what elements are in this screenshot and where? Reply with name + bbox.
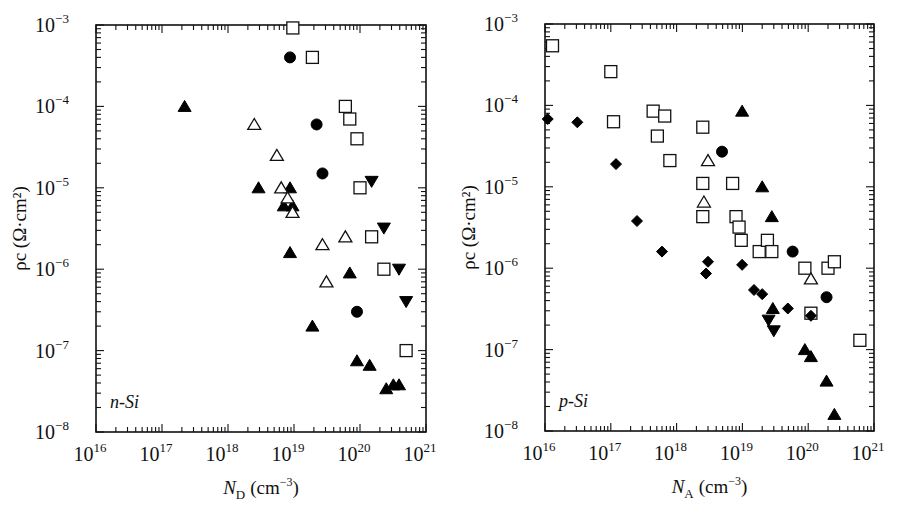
data-point-square-open [753, 246, 765, 258]
data-point-triangle-up-open [697, 196, 710, 207]
y-tick-label: 10−4 [35, 92, 69, 117]
data-point-square-open [651, 130, 663, 142]
data-point-circle-filled [821, 292, 832, 303]
x-tick-label: 1018 [654, 439, 687, 464]
data-point-square-open [287, 22, 299, 34]
data-point-triangle-up-filled [756, 181, 769, 192]
plot-frame [96, 25, 426, 432]
x-tick-label: 1019 [272, 440, 305, 465]
data-point-square-open [828, 256, 840, 268]
data-point-diamond-filled [701, 268, 712, 279]
x-tick-label: 1017 [140, 440, 174, 465]
data-point-triangle-up-open [316, 239, 329, 250]
data-point-diamond-filled [572, 117, 583, 128]
y-tick-label: 10−7 [484, 336, 518, 361]
y-tick-label: 10−5 [484, 173, 518, 198]
series-open-square [287, 22, 412, 357]
data-point-triangle-up-filled [343, 267, 356, 278]
axis-ticks [545, 24, 874, 431]
data-point-square-open [608, 116, 620, 128]
y-tick-label: 10−3 [484, 10, 518, 35]
panel-p-si: 10161017101810191020102110−310−410−510−6… [458, 10, 885, 501]
data-point-square-open [697, 121, 709, 133]
y-tick-label: 10−8 [484, 417, 518, 442]
data-point-square-open [306, 51, 318, 63]
data-point-triangle-up-filled [828, 408, 841, 419]
x-tick-label: 1020 [786, 439, 819, 464]
y-tick-label: 10−5 [35, 174, 69, 199]
data-point-triangle-up-open [248, 118, 261, 129]
data-point-square-open [400, 345, 412, 357]
data-point-triangle-up-open [270, 149, 283, 160]
x-tick-label: 1018 [206, 440, 239, 465]
panel-label: p-Si [557, 391, 588, 411]
data-point-square-open [735, 234, 747, 246]
data-point-circle-filled [717, 146, 728, 157]
series-open-triangle [248, 118, 352, 286]
panel-n-si: 10161017101810191020102110−310−410−510−6… [9, 11, 437, 502]
data-point-circle-filled [311, 119, 322, 130]
data-point-square-open [733, 221, 745, 233]
x-tick-label: 1021 [404, 440, 437, 465]
x-tick-label: 1021 [852, 439, 885, 464]
data-point-square-open [854, 334, 866, 346]
data-point-square-open [761, 234, 773, 246]
chart-canvas: 10161017101810191020102110−310−410−510−6… [0, 0, 899, 514]
data-point-triangle-up-filled [363, 359, 376, 370]
data-point-triangle-down-filled [393, 264, 406, 275]
y-axis-label: ρc (Ω·cm²) [9, 186, 31, 271]
data-point-diamond-filled [542, 114, 553, 125]
data-point-triangle-down-filled [767, 326, 780, 337]
data-point-square-open [799, 262, 811, 274]
data-point-square-open [697, 211, 709, 223]
data-point-triangle-up-filled [736, 105, 749, 116]
data-point-triangle-up-open [320, 276, 333, 287]
x-tick-label: 1019 [720, 439, 753, 464]
data-point-triangle-up-filled [306, 320, 319, 331]
data-point-square-open [378, 263, 390, 275]
data-point-circle-filled [285, 52, 296, 63]
figure: 10161017101810191020102110−310−410−510−6… [0, 0, 899, 514]
data-point-square-open [605, 66, 617, 78]
data-point-square-open [664, 155, 676, 167]
data-point-triangle-up-open [339, 231, 352, 242]
data-point-square-open [366, 231, 378, 243]
data-point-square-open [354, 182, 366, 194]
data-point-diamond-filled [737, 259, 748, 270]
data-point-diamond-filled [657, 246, 668, 257]
y-tick-label: 10−6 [484, 254, 518, 279]
data-point-diamond-filled [611, 159, 622, 170]
data-point-triangle-down-filled [365, 176, 378, 187]
y-tick-label: 10−3 [35, 11, 69, 36]
data-point-square-open [351, 133, 363, 145]
data-point-triangle-up-filled [350, 355, 363, 366]
data-point-square-open [647, 105, 659, 117]
data-point-square-open [727, 177, 739, 189]
series-open-square [546, 40, 865, 347]
data-point-square-open [344, 113, 356, 125]
series-filled-triangle [178, 100, 405, 393]
y-tick-label: 10−7 [35, 337, 69, 362]
data-point-square-open [546, 40, 558, 52]
data-point-square-open [339, 100, 351, 112]
data-point-diamond-filled [631, 216, 642, 227]
data-point-circle-filled [317, 168, 328, 179]
data-point-triangle-up-open [701, 155, 714, 166]
x-axis-label: NA(cm−3) [671, 474, 748, 501]
x-axis-label: ND(cm−3) [222, 475, 299, 502]
x-tick-label: 1016 [74, 440, 108, 465]
data-point-circle-filled [351, 306, 362, 317]
data-point-triangle-up-filled [820, 375, 833, 386]
data-point-square-open [766, 246, 778, 258]
data-point-triangle-up-filled [284, 247, 297, 258]
data-point-diamond-filled [782, 303, 793, 314]
data-point-circle-filled [787, 246, 798, 257]
data-point-diamond-filled [702, 256, 713, 267]
data-point-triangle-up-filled [766, 302, 779, 313]
data-point-triangle-up-open [275, 182, 288, 193]
y-axis-label: ρc (Ω·cm²) [458, 185, 480, 270]
plot-frame [545, 24, 874, 431]
x-tick-label: 1016 [523, 439, 557, 464]
data-point-triangle-down-filled [400, 297, 413, 308]
data-point-square-open [659, 110, 671, 122]
